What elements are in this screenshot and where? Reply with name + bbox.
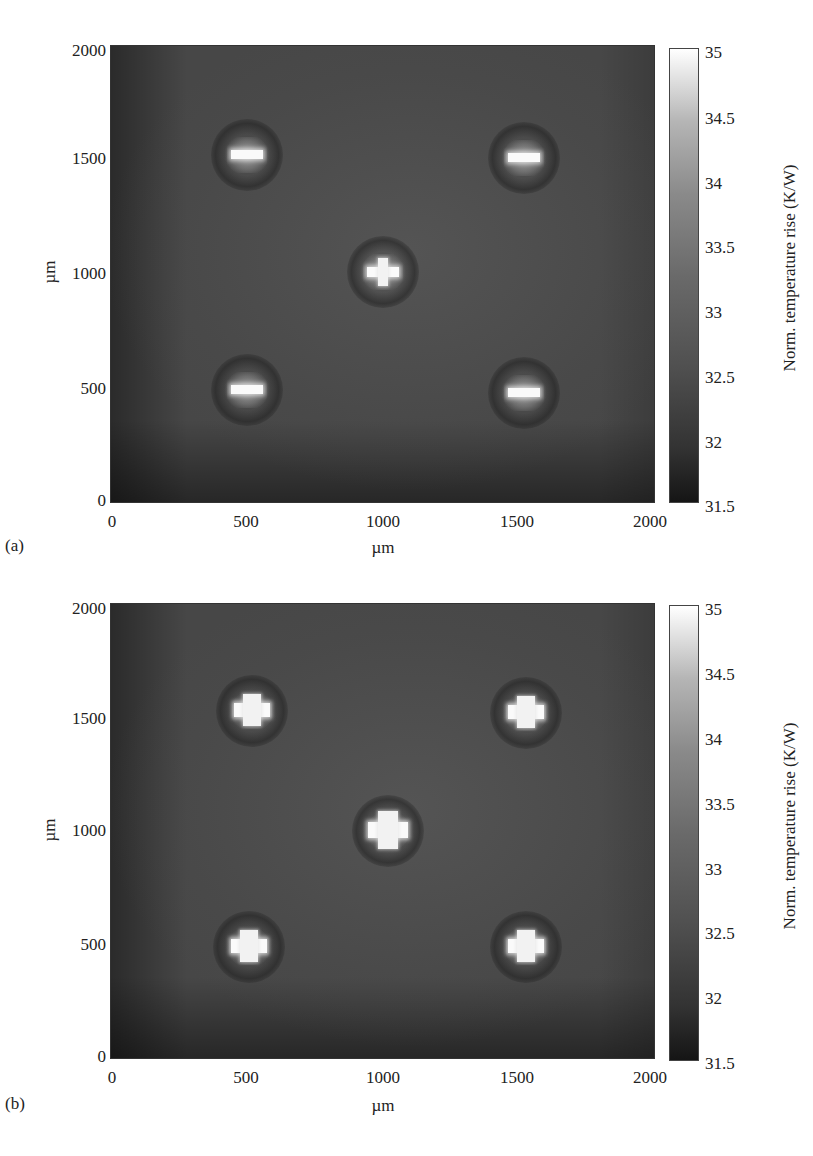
hot-spot (490, 911, 562, 983)
colorbar-tick: 34 (705, 731, 722, 748)
hot-spot (216, 675, 288, 747)
x-tick: 2000 (620, 1068, 680, 1088)
colorbar-tick: 33 (705, 861, 722, 878)
x-tick: 1500 (487, 1068, 547, 1088)
hot-spot (490, 677, 562, 749)
colorbar-label: Norm. temperature rise (K/W) (780, 696, 800, 956)
hot-spot (352, 795, 424, 867)
colorbar-tick: 31.5 (705, 1055, 735, 1072)
colorbar-tick: 32 (705, 990, 722, 1007)
y-tick: 2000 (46, 600, 106, 617)
panel-b: 2000 1500 1000 500 0 µm 0 500 1000 1500 … (0, 0, 813, 1156)
y-axis-label: µm (40, 818, 60, 841)
y-tick: 1500 (46, 710, 106, 727)
x-tick: 500 (216, 1068, 276, 1088)
colorbar-tick: 32.5 (705, 925, 735, 942)
x-axis-label: µm (353, 1096, 413, 1116)
colorbar-tick: 35 (705, 601, 722, 618)
y-tick: 0 (46, 1048, 106, 1065)
heatmap-b (110, 603, 655, 1059)
y-tick: 500 (46, 936, 106, 953)
hot-spot (213, 911, 285, 983)
colorbar-tick: 33.5 (705, 796, 735, 813)
colorbar (669, 605, 699, 1061)
x-tick: 1000 (353, 1068, 413, 1088)
x-tick: 0 (82, 1068, 142, 1088)
panel-label: (b) (5, 1094, 25, 1114)
colorbar-tick: 34.5 (705, 666, 735, 683)
